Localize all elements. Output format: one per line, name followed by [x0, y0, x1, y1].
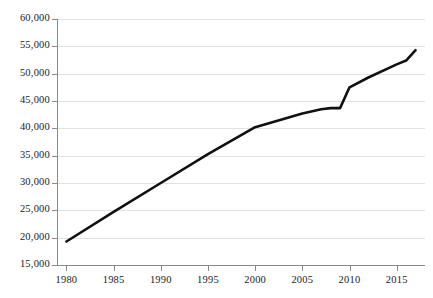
line-chart: 60,00055,00050,00045,00040,00035,00030,0…	[0, 0, 433, 298]
series-plot-area	[0, 0, 433, 298]
data-series-line	[66, 50, 415, 241]
